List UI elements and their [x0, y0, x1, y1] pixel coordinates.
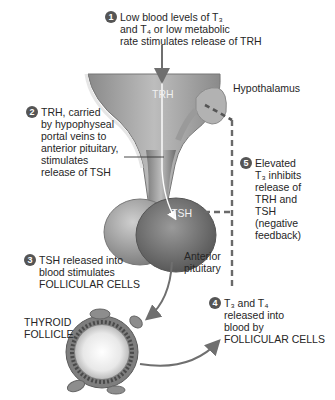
step-2: 2 TRH, carried by hypophyseal portal vei… [26, 106, 118, 178]
anterior-pituitary-label: Anterior pituitary [184, 250, 221, 274]
step-3-text: TSH released into blood stimulates FOLLI… [39, 254, 140, 290]
step-4: 4 T₃ and T₄ released into blood by FOLLI… [209, 297, 325, 345]
trh-label: TRH [152, 88, 174, 100]
step-5: 5 Elevated T₃ inhibits release of TRH an… [240, 157, 301, 241]
step-1: 1 Low blood levels of T₃ and T₄ or low m… [105, 11, 262, 47]
step-4-text: T₃ and T₄ released into blood by FOLLICU… [224, 297, 325, 345]
thyroid-regulation-diagram: TRH Hypothalamus TSH Anterior pituitary … [0, 0, 335, 400]
tsh-label: TSH [171, 207, 192, 219]
step-number-badge: 5 [240, 157, 252, 169]
step-number-badge: 4 [209, 297, 221, 309]
step-number-badge: 1 [105, 11, 117, 23]
step-number-badge: 2 [26, 106, 38, 118]
hypothalamus-label: Hypothalamus [233, 82, 300, 94]
step-2-text: TRH, carried by hypophyseal portal veins… [41, 106, 118, 178]
step-1-text: Low blood levels of T₃ and T₄ or low met… [120, 11, 262, 47]
step-3: 3 TSH released into blood stimulates FOL… [24, 254, 140, 290]
step-number-badge: 3 [24, 254, 36, 266]
thyroid-follicle-label: THYROID FOLLICLE [24, 316, 74, 340]
step-5-text: Elevated T₃ inhibits release of TRH and … [255, 157, 301, 241]
